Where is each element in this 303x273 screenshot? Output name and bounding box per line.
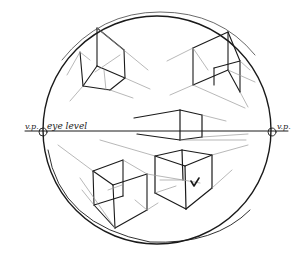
vanishing-point-left-label: v.p. xyxy=(25,122,39,131)
cube-below-left xyxy=(58,145,158,228)
cube-above-right xyxy=(167,32,255,108)
cube-above-left xyxy=(67,28,150,101)
vanishing-point-right-label: v.p. xyxy=(277,122,291,131)
cube-below-right xyxy=(100,140,248,209)
right-vanishing-point xyxy=(268,128,276,136)
perspective-sketch xyxy=(0,0,303,273)
cube-on-horizon xyxy=(134,110,248,140)
eye-level-label: eye level xyxy=(47,121,87,131)
